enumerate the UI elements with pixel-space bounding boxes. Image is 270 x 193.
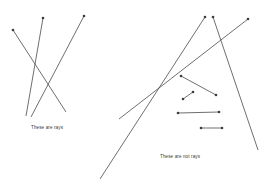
segment-3-end-dot (218, 111, 221, 114)
segment-4 (200, 127, 224, 130)
diagram-canvas: These are rays These are not rays (0, 0, 270, 193)
segment-3 (177, 111, 221, 115)
rays-caption: These are rays (31, 126, 63, 131)
ray-6-line (119, 19, 248, 119)
geometry-figure (0, 0, 270, 193)
segment-4-end-dot (221, 127, 224, 130)
segment-1-start-dot (180, 75, 183, 78)
ray-5-line (213, 17, 258, 150)
ray-4-endpoint-dot (204, 16, 207, 19)
ray-1-endpoint-dot (12, 29, 15, 32)
ray-5 (212, 16, 258, 150)
ray-1-line (13, 30, 66, 112)
segment-3-line (178, 112, 219, 113)
segments-group (177, 75, 224, 130)
ray-3 (31, 15, 85, 117)
segment-1-line (181, 76, 216, 95)
ray-2-line (26, 18, 43, 116)
segment-1 (180, 75, 218, 97)
ray-5-endpoint-dot (212, 16, 215, 19)
ray-3-line (31, 16, 84, 117)
not-rays-caption: These are not rays (160, 155, 200, 160)
ray-3-endpoint-dot (83, 15, 86, 18)
rays-group (12, 15, 258, 179)
segment-3-start-dot (177, 112, 180, 115)
segment-1-end-dot (215, 94, 218, 97)
segment-2-start-dot (182, 98, 185, 101)
ray-6-endpoint-dot (247, 18, 250, 21)
ray-6 (119, 18, 249, 119)
ray-2 (26, 17, 44, 116)
segment-2 (182, 91, 195, 101)
ray-2-endpoint-dot (42, 17, 45, 20)
segment-2-end-dot (192, 91, 195, 94)
segment-4-start-dot (200, 127, 203, 130)
segment-2-line (183, 92, 193, 99)
